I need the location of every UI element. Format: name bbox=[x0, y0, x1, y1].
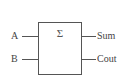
output-wire-cout bbox=[81, 59, 96, 60]
input-label-b: B bbox=[11, 54, 18, 64]
output-label-sum: Sum bbox=[97, 31, 115, 41]
input-wire-b bbox=[22, 59, 38, 60]
input-wire-a bbox=[22, 36, 38, 37]
output-wire-sum bbox=[81, 36, 96, 37]
adder-block: Σ bbox=[38, 22, 82, 75]
output-label-cout: Cout bbox=[97, 54, 116, 64]
sigma-symbol: Σ bbox=[39, 27, 81, 39]
input-label-a: A bbox=[11, 31, 18, 41]
